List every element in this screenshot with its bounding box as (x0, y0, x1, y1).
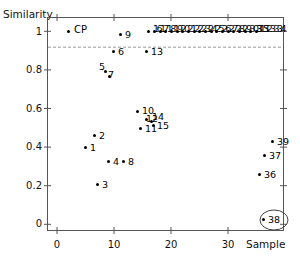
point-label-cp: CP (74, 25, 87, 35)
point-label-13: 13 (151, 47, 163, 57)
point-label-4: 4 (113, 157, 119, 167)
data-point[interactable] (96, 183, 99, 186)
point-label-39: 39 (277, 137, 289, 147)
point-label-37: 37 (269, 151, 281, 161)
data-point[interactable] (263, 154, 266, 157)
point-label-35: 35 (257, 24, 269, 34)
data-point[interactable] (84, 146, 87, 149)
data-point[interactable] (112, 50, 115, 53)
point-label-11: 11 (145, 124, 157, 134)
data-point[interactable] (145, 50, 148, 53)
point-label-36: 36 (264, 170, 276, 180)
data-point[interactable] (107, 160, 110, 163)
point-label-38: 38 (268, 215, 280, 225)
data-point[interactable] (271, 140, 274, 143)
data-point[interactable] (147, 30, 150, 33)
data-point[interactable] (93, 134, 96, 137)
data-point[interactable] (262, 218, 265, 221)
point-label-9: 9 (125, 30, 131, 40)
data-point[interactable] (67, 30, 70, 33)
data-point[interactable] (119, 33, 122, 36)
point-label-5: 5 (99, 62, 105, 72)
point-label-15: 15 (157, 121, 169, 131)
point-label-8: 8 (128, 157, 134, 167)
data-point[interactable] (122, 160, 125, 163)
point-label-1: 1 (90, 143, 96, 153)
point-label-6: 6 (118, 47, 124, 57)
data-point[interactable] (258, 173, 261, 176)
point-label-2: 2 (99, 131, 105, 141)
data-point[interactable] (136, 110, 139, 113)
data-point[interactable] (139, 127, 142, 130)
point-label-7: 7 (108, 70, 114, 80)
point-label-3: 3 (102, 180, 108, 190)
